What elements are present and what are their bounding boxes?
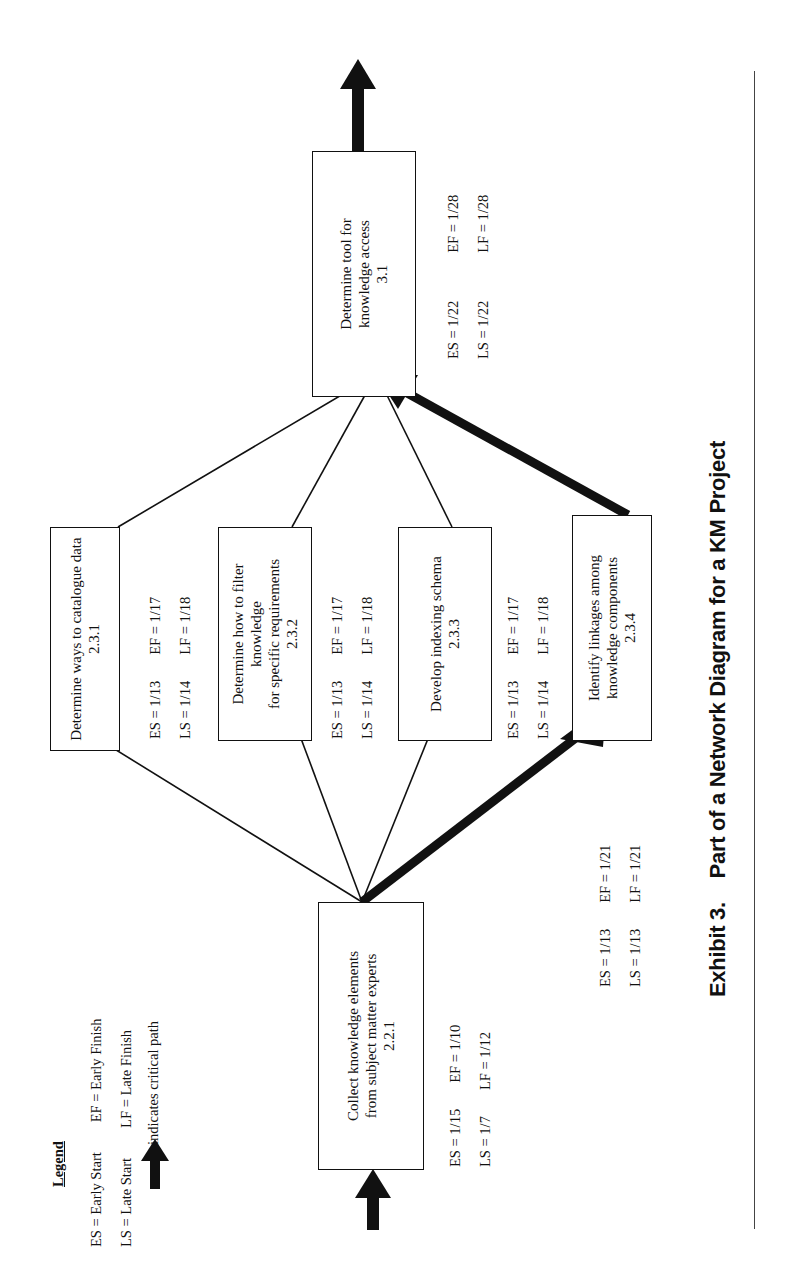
legend-row-late: LS = Late Start LF = Late Finish — [111, 1019, 141, 1247]
critical-arrow-out — [340, 59, 376, 155]
node-label: Collect knowledge elements from subject … — [344, 951, 380, 1121]
lf: LF = 1/18 — [352, 597, 382, 655]
ls: LS = 1/14 — [352, 681, 382, 739]
es: ES = 1/13 — [140, 681, 170, 739]
node-label: Determine how to filter knowledge for sp… — [229, 559, 283, 709]
node-2-3-2: Determine how to filter knowledge for sp… — [218, 527, 312, 741]
lf: LF = 1/18 — [528, 597, 558, 655]
ef: EF = 1/21 — [590, 845, 620, 903]
caption-number: Exhibit 3. — [705, 902, 730, 997]
lf: LF = 1/12 — [470, 1032, 500, 1090]
ef: EF = 1/17 — [498, 597, 528, 655]
node-2-3-4: Identify linkages among knowledge compon… — [572, 515, 652, 741]
critical-arrow-in — [355, 1169, 391, 1230]
node-label: Determine ways to catalogue data — [67, 537, 85, 740]
node-2-3-1: Determine ways to catalogue data 2.3.1 — [50, 527, 120, 751]
legend-title: Legend — [50, 1019, 67, 1187]
node-label: Determine tool for knowledge access — [337, 218, 373, 330]
caption-title: Part of a Network Diagram for a KM Proje… — [705, 441, 730, 878]
dates-2-2-1: ES = 1/15EF = 1/10 LS = 1/7LF = 1/12 — [440, 1025, 500, 1167]
es: ES = 1/13 — [590, 929, 620, 987]
legend-ef: EF = Early Finish — [81, 1019, 111, 1123]
legend-row-early: ES = Early Start EF = Early Finish — [81, 1019, 111, 1247]
dates-3-1: ES = 1/22EF = 1/28 LS = 1/22LF = 1/28 — [438, 195, 498, 359]
node-code: 2.3.2 — [283, 619, 301, 649]
ls: LS = 1/22 — [468, 301, 498, 359]
lf: LF = 1/18 — [170, 597, 200, 655]
es: ES = 1/13 — [498, 681, 528, 739]
legend-critical-label: indicates critical path — [145, 1021, 162, 1145]
legend-ls: LS = Late Start — [111, 1158, 141, 1247]
ef: EF = 1/10 — [440, 1025, 470, 1083]
ls: LS = 1/14 — [528, 681, 558, 739]
figure-caption: Exhibit 3. Part of a Network Diagram for… — [705, 277, 731, 997]
node-label: Identify linkages among knowledge compon… — [585, 555, 621, 701]
node-code: 2.3.4 — [621, 613, 639, 643]
node-code: 3.1 — [373, 265, 391, 284]
node-code: 2.3.1 — [85, 624, 103, 654]
node-code: 2.3.3 — [445, 619, 463, 649]
es: ES = 1/15 — [440, 1109, 470, 1167]
ef: EF = 1/28 — [438, 195, 468, 253]
node-code: 2.2.1 — [380, 1021, 398, 1051]
es: ES = 1/22 — [438, 301, 468, 359]
es: ES = 1/13 — [322, 681, 352, 739]
ls: LS = 1/14 — [170, 681, 200, 739]
ef: EF = 1/17 — [322, 597, 352, 655]
dates-2-3-1: ES = 1/13EF = 1/17 LS = 1/14LF = 1/18 — [140, 597, 200, 739]
node-label: Develop indexing schema — [427, 556, 445, 712]
network-diagram-page: Legend ES = Early Start EF = Early Finis… — [0, 0, 802, 1287]
node-3-1: Determine tool for knowledge access 3.1 — [312, 151, 416, 397]
legend-es: ES = Early Start — [81, 1152, 111, 1247]
dates-2-3-4: ES = 1/13EF = 1/21 LS = 1/13LF = 1/21 — [590, 845, 650, 987]
separator-rule — [754, 71, 755, 1229]
lf: LF = 1/28 — [468, 195, 498, 253]
legend-critical-path: indicates critical path — [145, 1019, 162, 1247]
lf: LF = 1/21 — [620, 845, 650, 903]
node-2-3-3: Develop indexing schema 2.3.3 — [398, 527, 492, 741]
ls: LS = 1/7 — [470, 1116, 500, 1167]
dates-2-3-3: ES = 1/13EF = 1/17 LS = 1/14LF = 1/18 — [498, 597, 558, 739]
dates-2-3-2: ES = 1/13EF = 1/17 LS = 1/14LF = 1/18 — [322, 597, 382, 739]
node-2-2-1: Collect knowledge elements from subject … — [318, 902, 424, 1170]
ls: LS = 1/13 — [620, 929, 650, 987]
legend-lf: LF = Late Finish — [111, 1030, 141, 1128]
ef: EF = 1/17 — [140, 597, 170, 655]
legend: Legend ES = Early Start EF = Early Finis… — [50, 1019, 162, 1247]
